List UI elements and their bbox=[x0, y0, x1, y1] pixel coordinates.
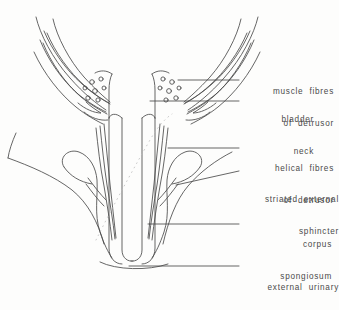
muscle-fibre-circle bbox=[93, 89, 98, 94]
label-external-urinary-meatus: external urinary meatus bbox=[242, 262, 339, 310]
muscle-fibre-circle bbox=[177, 86, 181, 90]
external-meatus-arc bbox=[100, 262, 168, 269]
left-urethra-inner-wall bbox=[122, 118, 133, 261]
muscle-fibre-circle bbox=[161, 77, 165, 81]
label-line: striated external bbox=[242, 195, 339, 206]
right-fibre-hook-2 bbox=[186, 112, 210, 120]
right-lower-body-contour bbox=[163, 152, 232, 244]
anatomical-figure: muscle fibres of detrusor bladder neck h… bbox=[0, 0, 339, 310]
left-sphincter-lobe-crease bbox=[64, 167, 92, 184]
muscle-fibre-circle bbox=[102, 86, 106, 90]
muscle-fibre-circle bbox=[96, 98, 100, 102]
muscle-fibre-circle bbox=[158, 86, 162, 90]
leader-striated-sphincter bbox=[176, 171, 239, 185]
right-sphincter-lobe-crease bbox=[172, 167, 200, 184]
label-line: bladder bbox=[242, 115, 314, 126]
muscle-fibre-circle bbox=[99, 77, 103, 81]
muscle-fibre-circle bbox=[170, 80, 175, 85]
left-detrusor-bundle-5 bbox=[34, 52, 103, 124]
left-bladder-neck-edge bbox=[109, 74, 112, 118]
left-outer-bladder-wall bbox=[36, 17, 106, 110]
muscle-fibre-circle bbox=[164, 98, 168, 102]
label-line: external urinary bbox=[242, 283, 339, 294]
left-fibre-hook-2 bbox=[84, 112, 108, 120]
right-urethra-inner-wall bbox=[131, 118, 142, 261]
left-lower-body-contour bbox=[8, 158, 104, 244]
label-line: corpus bbox=[242, 240, 332, 251]
label-line: helical fibres bbox=[242, 164, 334, 175]
dotted-guide-line bbox=[96, 114, 172, 240]
muscle-fibre-circle bbox=[174, 96, 178, 100]
right-urethra-tip-top bbox=[142, 114, 155, 118]
left-helical-fibre-2 bbox=[100, 126, 115, 239]
left-midbody-contour bbox=[8, 133, 16, 158]
left-bladder-neck-top bbox=[95, 71, 112, 74]
right-bladder-neck-edge bbox=[152, 74, 155, 118]
muscle-fibre-circle bbox=[90, 80, 95, 85]
muscle-fibre-circle bbox=[167, 89, 172, 94]
right-helical-fibre-2 bbox=[149, 126, 164, 239]
right-bladder-neck-top bbox=[152, 71, 169, 74]
left-urethra-tip-top bbox=[109, 114, 122, 118]
